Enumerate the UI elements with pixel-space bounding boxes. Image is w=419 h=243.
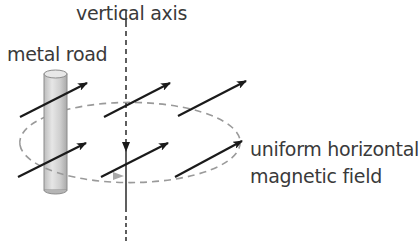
field-arrow-icon [104, 83, 170, 117]
metal-rod-label: metal road [7, 43, 107, 65]
field-label-line2: magnetic field [250, 165, 382, 187]
metal-rod [44, 70, 67, 194]
vertical-axis-label: vertical axis [76, 2, 187, 24]
field-arrow-icon [175, 141, 242, 177]
field-arrow-icon [178, 81, 246, 116]
rotation-direction-icon [113, 172, 124, 180]
field-label-line1: uniform horizontal [250, 138, 419, 160]
field-arrow-icon [101, 143, 168, 177]
vertical-axis [122, 10, 130, 243]
